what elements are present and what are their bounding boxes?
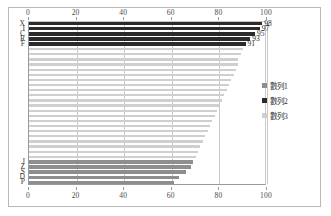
bar [29, 140, 203, 142]
axis-tick-mark [266, 187, 267, 190]
bar [29, 84, 229, 86]
legend-item[interactable]: 數列1 [262, 78, 324, 93]
bar [29, 176, 179, 179]
axis-tick-mark [123, 17, 124, 20]
legend-swatch-icon [262, 98, 267, 103]
bar [29, 151, 198, 153]
bar [29, 74, 234, 76]
bar [29, 125, 210, 127]
axis-tick-label: 100 [260, 8, 272, 17]
bar [29, 145, 200, 147]
axis-tick-label: 60 [167, 8, 175, 17]
axis-tick-label: 100 [260, 191, 272, 200]
axis-tick-label: 40 [119, 191, 127, 200]
bar [29, 22, 262, 25]
bar [29, 115, 215, 117]
bar [29, 110, 217, 112]
bar [29, 104, 219, 106]
axis-tick-mark [28, 17, 29, 20]
legend-item[interactable]: 數列3 [262, 108, 324, 123]
axis-tick-label: 0 [26, 191, 30, 200]
category-axis: XICRFJZSDP [13, 21, 27, 185]
bar [29, 69, 236, 71]
bottom-value-axis: 020406080100 [28, 187, 266, 199]
bar [29, 37, 250, 40]
axis-tick-label: 60 [167, 191, 175, 200]
axis-tick-label: 80 [214, 8, 222, 17]
legend-swatch-icon [262, 113, 267, 118]
top-value-axis: 020406080100 [28, 8, 266, 20]
axis-tick-mark [123, 187, 124, 190]
bar [29, 63, 238, 65]
legend-swatch-icon [262, 83, 267, 88]
bar [29, 99, 222, 101]
bar [29, 32, 255, 35]
bar [29, 94, 224, 96]
legend-label: 數列1 [270, 80, 288, 91]
bar [29, 53, 241, 55]
axis-tick-label: 20 [72, 191, 80, 200]
bar [29, 42, 246, 45]
axis-tick-mark [28, 187, 29, 190]
axis-tick-mark [76, 17, 77, 20]
axis-tick-label: 80 [214, 191, 222, 200]
bar [29, 48, 243, 50]
bar [29, 89, 227, 91]
bar-value-label: 91 [248, 40, 256, 48]
bar [29, 79, 231, 81]
axis-tick-label: 40 [119, 8, 127, 17]
bar [29, 156, 196, 158]
axis-tick-mark [171, 187, 172, 190]
legend-label: 數列2 [270, 95, 288, 106]
bars-layer: 9897959391 [28, 21, 266, 185]
axis-tick-mark [76, 187, 77, 190]
axis-tick-label: 20 [72, 8, 80, 17]
bar [29, 120, 212, 122]
bar [29, 135, 205, 137]
chart-legend: 數列1數列2數列3 [262, 78, 324, 123]
category-label: F [21, 40, 25, 48]
bar [29, 160, 193, 163]
bar [29, 58, 238, 60]
axis-tick-label: 0 [26, 8, 30, 17]
axis-tick-mark [218, 187, 219, 190]
bar [29, 130, 208, 132]
axis-tick-mark [171, 17, 172, 20]
bar [29, 27, 260, 30]
category-label: P [21, 178, 25, 186]
bar [29, 181, 174, 184]
legend-label: 數列3 [270, 110, 288, 121]
axis-tick-mark [218, 17, 219, 20]
bar [29, 165, 191, 168]
bar [29, 170, 186, 173]
legend-item[interactable]: 數列2 [262, 93, 324, 108]
